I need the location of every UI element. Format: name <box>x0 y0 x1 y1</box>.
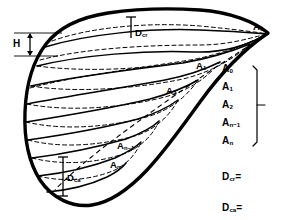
slice-dashed-6 <box>32 121 159 163</box>
h-arrowhead-up <box>27 33 33 38</box>
slice-curve-5 <box>28 100 178 140</box>
label-area-0: A0 <box>253 22 263 33</box>
slice-curve-0 <box>45 30 268 47</box>
back-edge-dashed-upper <box>40 34 268 60</box>
label-area-n: An <box>110 160 121 171</box>
equation-d-caudal: Dca= <box>222 203 242 214</box>
legend-item-area-1: A1 <box>222 82 233 93</box>
label-area-2: A2 <box>166 86 176 97</box>
legend-item-area-2: A2 <box>222 100 233 111</box>
legend-bracket <box>253 66 257 146</box>
legend-item-area-n: An <box>222 136 233 147</box>
label-height-h: H <box>13 39 20 49</box>
equation-d-cranial: Dcr= <box>222 172 241 183</box>
label-area-n-minus-1: An−1 <box>117 141 134 152</box>
slice-curve-6 <box>32 121 159 158</box>
label-area-1: A1 <box>196 61 206 72</box>
label-d-cranial-measure: Dcr <box>135 28 148 39</box>
label-d-caudal-measure: Dca <box>67 173 81 184</box>
figure-canvas: A0 A1 A2 An−1 An H Dcr Dca A0 A1 A2 An−1… <box>0 0 281 220</box>
h-arrowhead-down <box>27 51 33 56</box>
legend-item-area-0: A0 <box>222 64 233 75</box>
legend-item-area-n-minus-1: An−1 <box>222 118 240 129</box>
